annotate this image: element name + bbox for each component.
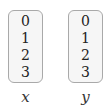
array-x-label: x — [8, 89, 43, 105]
array-x-cell-1: 1 — [9, 30, 42, 46]
array-y-cell-1: 1 — [69, 30, 102, 46]
array-x-cell-2: 2 — [9, 47, 42, 63]
array-x-cell-0: 0 — [9, 13, 42, 29]
array-y-cell-0: 0 — [69, 13, 102, 29]
cropped-text-fragment — [0, 0, 108, 3]
array-x-box: 0 1 2 3 — [8, 10, 43, 83]
array-y-box: 0 1 2 3 — [68, 10, 103, 83]
array-y-label: y — [68, 89, 103, 105]
array-y-cell-2: 2 — [69, 47, 102, 63]
array-x-cell-3: 3 — [9, 64, 42, 80]
array-y-cell-3: 3 — [69, 64, 102, 80]
